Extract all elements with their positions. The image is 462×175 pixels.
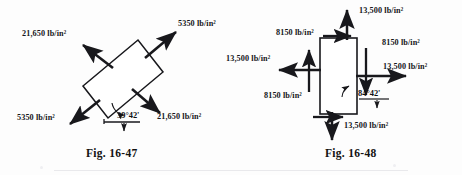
label-lower-right-stress: 21,650 lb/in² (157, 112, 201, 121)
element-outline (320, 38, 357, 114)
label-right-shear-stress: 8150 lb/in² (382, 38, 420, 47)
figure-page: 21,650 lb/in² 5350 lb/in² 5350 lb/in² 21… (0, 0, 462, 175)
label-left-normal-stress: 13,500 lb/in² (226, 54, 270, 63)
figure-caption-16-47: Fig. 16-47 (86, 147, 138, 159)
angle-label-39-42: 39°42' (117, 111, 139, 120)
label-upper-left-stress: 21,650 lb/in² (22, 29, 66, 38)
label-bottom-shear-stress: 8150 lb/in² (264, 91, 302, 100)
label-top-shear-stress: 8150 lb/in² (276, 28, 314, 37)
label-lower-left-stress: 5350 lb/in² (17, 113, 55, 122)
arrow-upper-right (145, 32, 176, 58)
label-top-normal-stress: 13,500 lb/in² (359, 6, 403, 15)
scan-speck (40, 166, 43, 169)
label-bottom-normal-stress: 13,500 lb/in² (344, 121, 388, 130)
arrow-lower-right (132, 89, 160, 113)
label-upper-right-stress: 5350 lb/in² (178, 19, 216, 28)
scan-speck (393, 164, 396, 167)
arrow-upper-left (83, 45, 113, 68)
angle-label-84-42: 84°42' (358, 89, 380, 98)
page-rule (54, 170, 408, 171)
figure-caption-16-48: Fig. 16-48 (325, 147, 377, 159)
arrow-lower-left (70, 100, 100, 124)
label-right-normal-stress: 13,500 lb/in² (383, 62, 427, 71)
